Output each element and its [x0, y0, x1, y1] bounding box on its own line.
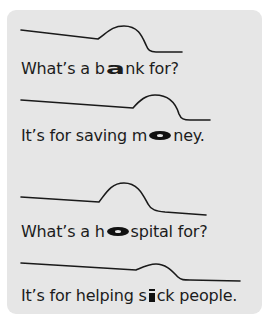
sentence-text-before: It’s for helping s — [21, 286, 147, 305]
sentence-question-hospital: What’s a hspital for? — [21, 223, 207, 241]
stressed-vowel-o-icon — [149, 131, 171, 140]
sentence-text-after: spital for? — [131, 222, 208, 241]
sentence-answer-money: It’s for saving mney. — [21, 127, 205, 145]
sentence-text-before: What’s a b — [21, 59, 105, 78]
intonation-curve-1 — [21, 26, 182, 52]
intonation-curves — [0, 0, 269, 320]
sentence-answer-sick: It’s for helping sck people. — [21, 287, 237, 305]
intonation-curve-4 — [21, 263, 240, 281]
sentence-text-before: It’s for saving m — [21, 126, 147, 145]
stressed-vowel-o-icon — [107, 227, 129, 236]
sentence-text-after: ck people. — [157, 286, 237, 305]
sentence-text-after: ney. — [173, 126, 204, 145]
sentence-question-bank: What’s a bank for? — [21, 60, 179, 78]
intonation-curve-3 — [21, 183, 206, 215]
stressed-letter-a: a — [106, 60, 125, 78]
sentence-text-after: nk for? — [125, 59, 179, 78]
sentence-text-before: What’s a h — [21, 222, 105, 241]
stressed-vowel-i-icon — [149, 289, 155, 302]
intonation-curve-2 — [21, 95, 210, 120]
